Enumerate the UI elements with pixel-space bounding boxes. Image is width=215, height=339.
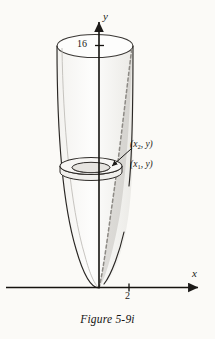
x-axis-tick-label-2: 2 bbox=[125, 291, 130, 301]
solid-of-revolution-illustration bbox=[0, 0, 215, 339]
outer-radius-point-label: (x2, y) bbox=[130, 140, 153, 150]
x-axis-label: x bbox=[192, 268, 197, 279]
figure-caption: Figure 5-9i bbox=[0, 313, 215, 325]
inner-radius-point-label: (x1, y) bbox=[130, 160, 153, 170]
washer-cross-section bbox=[60, 158, 122, 181]
y-axis-tick-label-16: 16 bbox=[77, 39, 87, 49]
inner-radius-label-suffix: , y) bbox=[141, 159, 153, 169]
inner-radius-label-subscript: 1 bbox=[137, 163, 140, 170]
y-axis-label: y bbox=[103, 11, 108, 22]
outer-radius-label-subscript: 2 bbox=[137, 143, 140, 150]
outer-radius-label-suffix: , y) bbox=[141, 139, 153, 149]
figure-container: y x 16 2 (x2, y) (x1, y) Figure 5-9i bbox=[0, 0, 215, 339]
